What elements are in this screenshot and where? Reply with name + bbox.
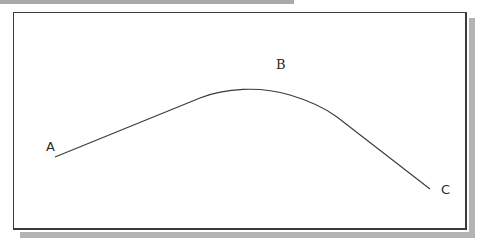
point-label-c: C: [441, 183, 450, 196]
curve-path: [55, 89, 430, 189]
point-label-a: A: [46, 140, 55, 153]
point-label-b: B: [276, 58, 286, 71]
diagram-canvas: [0, 0, 481, 245]
